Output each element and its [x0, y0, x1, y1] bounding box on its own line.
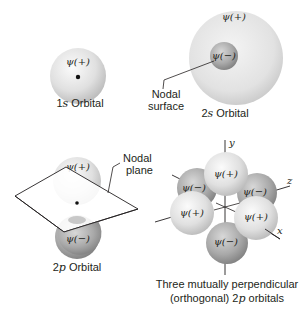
nodal-plane-label: Nodal — [123, 152, 152, 164]
orbitals-3d: y x z ψ(−) ψ(−) ψ(−) ψ(+) ψ(+) ψ(+) Thre… — [155, 137, 299, 305]
orbital-2s-caption: 2s Orbital — [201, 107, 248, 120]
lobe-right-negative-label: ψ(−) — [243, 186, 267, 197]
z-axis-label: z — [286, 175, 293, 186]
orbital-2p-lower-phase-label: ψ(−) — [66, 233, 90, 244]
orbitals-3d-caption-line2: (orthogonal) 2p orbitals — [170, 292, 285, 305]
center-cross-a — [216, 203, 236, 212]
orbitals-3d-caption-line1: Three mutually perpendicular — [156, 278, 299, 290]
orbital-2s-inner-phase-label: ψ(−) — [212, 50, 236, 61]
lobe-top-positive-label: ψ(+) — [214, 168, 238, 179]
orbital-diagram: ψ(+) 1s Orbital ψ(+) ψ(−) Nodal surface … — [0, 0, 300, 312]
orbital-1s-caption: 1s Orbital — [56, 97, 103, 110]
nucleus-dot — [76, 75, 80, 79]
orbital-2p: ψ(+) ψ(−) Nodal plane 2p Orbital — [15, 152, 153, 274]
nucleus-dot-2p — [75, 201, 79, 205]
orbital-2s: ψ(+) ψ(−) Nodal surface 2s Orbital — [148, 11, 283, 120]
lobe-bottom-negative-label: ψ(−) — [214, 236, 238, 247]
nodal-plane-label-2: plane — [126, 164, 153, 176]
lobe-front-right-positive-label: ψ(+) — [244, 211, 268, 222]
orbital-2p-caption: 2p Orbital — [53, 261, 102, 274]
y-axis-label: y — [228, 137, 235, 148]
x-axis-label: x — [277, 225, 283, 236]
lobe-left-positive-label: ψ(+) — [180, 207, 204, 218]
orbital-1s-phase-label: ψ(+) — [66, 56, 90, 67]
orbital-2s-outer-phase-label: ψ(+) — [222, 11, 246, 22]
lower-lobe-cap — [68, 216, 86, 224]
nodal-surface-label: Nodal — [152, 88, 181, 100]
nodal-surface-label-2: surface — [148, 100, 184, 112]
nodal-plane-leader-line — [108, 163, 120, 193]
orbital-1s: ψ(+) 1s Orbital — [50, 48, 106, 110]
